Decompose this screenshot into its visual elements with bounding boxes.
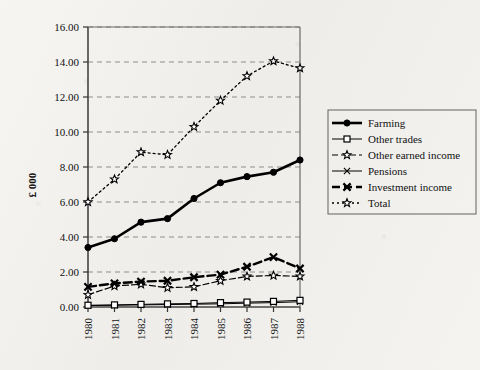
x-tick-label-1987: 1987 (268, 318, 280, 341)
data-point-farming-1982 (138, 219, 144, 225)
data-point-other-earned-income-1986 (243, 272, 251, 280)
data-point-total-1986 (243, 72, 251, 80)
y-tick-label-8.00: 8.00 (60, 161, 80, 173)
data-point-farming-1986 (244, 174, 250, 180)
data-point-total-1988 (296, 64, 304, 72)
data-point-farming-1987 (270, 169, 276, 175)
data-point-farming-1980 (85, 244, 91, 250)
data-point-farming-1988 (297, 157, 303, 163)
data-point-other-trades-1988 (297, 297, 303, 303)
y-tick-label-6.00: 6.00 (60, 196, 80, 208)
y-axis-title: £ 000 (26, 172, 38, 197)
legend-marker-filled-circle-icon (344, 120, 350, 126)
data-point-farming-1984 (191, 195, 197, 201)
y-tick-label-14.00: 14.00 (54, 56, 79, 68)
x-tick-label-1988: 1988 (294, 318, 306, 341)
legend-item-pensions[interactable]: Pensions (332, 165, 407, 177)
data-point-other-earned-income-1984 (190, 283, 198, 291)
legend-label-other-trades: Other trades (368, 133, 422, 145)
data-point-other-trades-1982 (138, 301, 144, 307)
x-tick-label-1985: 1985 (215, 318, 227, 341)
data-point-farming-1983 (164, 216, 170, 222)
y-tick-label-10.00: 10.00 (54, 126, 79, 138)
data-point-other-trades-1983 (165, 301, 171, 307)
data-point-farming-1985 (217, 180, 223, 186)
series-total (84, 57, 304, 205)
data-point-other-earned-income-1988 (296, 272, 304, 280)
legend-item-other-earned-income[interactable]: Other earned income (332, 149, 460, 161)
x-tick-label-1982: 1982 (135, 318, 147, 340)
chart-canvas: 0.002.004.006.008.0010.0012.0014.0016.00… (0, 0, 480, 370)
y-axis-title-text: £ 000 (26, 172, 38, 197)
x-tick-label-1981: 1981 (109, 318, 121, 340)
y-tick-label-2.00: 2.00 (60, 266, 80, 278)
y-tick-label-12.00: 12.00 (54, 91, 79, 103)
legend-label-investment-income: Investment income (368, 181, 452, 193)
data-point-other-trades-1984 (191, 301, 197, 307)
data-point-total-1983 (164, 151, 172, 159)
legend-item-total[interactable]: Total (332, 197, 390, 209)
legend-marker-open-star-icon (343, 199, 351, 207)
series-line-farming (88, 160, 300, 248)
x-tick-label-1983: 1983 (162, 318, 174, 341)
legend-marker-open-square-icon (344, 136, 350, 142)
data-point-other-earned-income-1980 (84, 291, 92, 299)
legend-label-other-earned-income: Other earned income (368, 149, 460, 161)
x-tick-label-1986: 1986 (241, 318, 253, 341)
data-point-total-1987 (270, 57, 278, 65)
y-tick-label-16.00: 16.00 (54, 21, 79, 33)
data-point-farming-1981 (111, 236, 117, 242)
x-tick-label-1984: 1984 (188, 318, 200, 341)
legend-item-investment-income[interactable]: Investment income (332, 181, 452, 193)
data-point-other-trades-1987 (271, 298, 277, 304)
legend-item-farming[interactable]: Farming (332, 117, 406, 129)
legend-marker-open-star-icon (343, 151, 351, 159)
data-point-other-trades-1981 (112, 302, 118, 308)
data-point-other-trades-1980 (85, 302, 91, 308)
x-axis-labels: 198019811982198319841985198619871988 (82, 307, 306, 340)
data-point-other-trades-1985 (218, 300, 224, 306)
legend-item-other-trades[interactable]: Other trades (332, 133, 422, 145)
data-point-other-trades-1986 (244, 299, 250, 305)
y-tick-label-4.00: 4.00 (60, 231, 80, 243)
x-tick-label-1980: 1980 (82, 318, 94, 341)
legend-label-farming: Farming (368, 117, 406, 129)
legend-label-pensions: Pensions (368, 165, 407, 177)
legend: FarmingOther tradesOther earned incomePe… (328, 110, 476, 214)
legend-label-total: Total (368, 197, 390, 209)
y-tick-label-0.00: 0.00 (60, 301, 80, 313)
data-point-total-1982 (137, 148, 145, 156)
line-chart: 0.002.004.006.008.0010.0012.0014.0016.00… (0, 0, 480, 370)
y-axis-labels: 0.002.004.006.008.0010.0012.0014.0016.00 (54, 21, 88, 313)
data-point-total-1980 (84, 198, 92, 206)
